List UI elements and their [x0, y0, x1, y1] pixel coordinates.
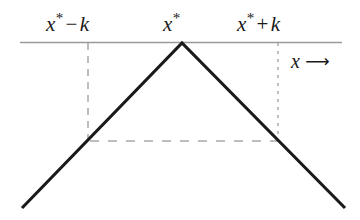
label-x-star-minus-k-operator: − [63, 12, 79, 36]
tent-function-figure: x*−k x* x*+k x⟶ [0, 0, 360, 220]
label-x-star-plus-k-operator: + [254, 12, 270, 36]
label-x-star-minus-k-base: x [46, 12, 56, 36]
label-x-axis-base: x [291, 50, 300, 72]
right-arrow-icon: ⟶ [300, 51, 330, 71]
label-x-axis-direction: x⟶ [291, 51, 330, 71]
label-x-star-plus-k: x*+k [237, 14, 280, 35]
label-x-star-plus-k-base: x [237, 12, 247, 36]
label-x-star-minus-k: x*−k [46, 14, 89, 35]
label-x-star-minus-k-offset: k [80, 12, 90, 36]
label-x-star-plus-k-offset: k [271, 12, 281, 36]
label-x-star: x* [163, 14, 180, 35]
label-x-star-star: * [173, 10, 181, 26]
label-x-star-base: x [163, 12, 173, 36]
